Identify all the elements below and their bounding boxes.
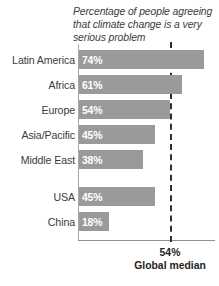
category-label-europe: Europe	[41, 104, 75, 116]
chart-title: Percentage of people agreeing that clima…	[73, 5, 215, 45]
category-label-middle-east: Middle East	[21, 154, 75, 166]
category-label-asia-pacific: Asia/Pacific	[21, 129, 75, 141]
bar-middle-east: 38%	[79, 150, 143, 169]
global-median-annotation: 54% Global median	[134, 247, 206, 272]
bar-europe: 54%	[79, 100, 170, 119]
bar-value-label: 45%	[82, 129, 102, 140]
bar-asia-pacific: 45%	[79, 125, 155, 144]
bar-value-label: 18%	[82, 216, 102, 227]
table-row: Europe54%	[0, 100, 219, 119]
category-label-china: China	[48, 216, 75, 228]
table-row: Asia/Pacific45%	[0, 125, 219, 144]
bar-value-label: 54%	[82, 104, 102, 115]
table-row: USA45%	[0, 187, 219, 206]
bar-value-label: 38%	[82, 154, 102, 165]
table-row: China18%	[0, 212, 219, 231]
bar-africa: 61%	[79, 75, 182, 94]
category-label-usa: USA	[54, 191, 75, 203]
bar-value-label: 74%	[82, 54, 102, 65]
bar-china: 18%	[79, 212, 109, 231]
plot-area: Latin America74%Africa61%Europe54%Asia/P…	[0, 44, 219, 242]
table-row: Latin America74%	[0, 50, 219, 69]
bar-latin-america: 74%	[79, 50, 204, 69]
bar-value-label: 61%	[82, 79, 102, 90]
category-label-latin-america: Latin America	[12, 54, 75, 66]
table-row: Middle East38%	[0, 150, 219, 169]
bar-usa: 45%	[79, 187, 155, 206]
global-median-value: 54%	[134, 247, 206, 260]
table-row: Africa61%	[0, 75, 219, 94]
bar-chart: Percentage of people agreeing that clima…	[0, 0, 219, 286]
x-axis-line	[78, 240, 215, 241]
global-median-label: Global median	[134, 260, 206, 273]
bar-value-label: 45%	[82, 191, 102, 202]
category-label-africa: Africa	[49, 79, 75, 91]
